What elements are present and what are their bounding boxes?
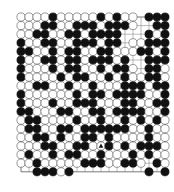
- white-stone: [65, 39, 73, 47]
- black-stone: [161, 47, 169, 55]
- white-stone: [145, 90, 153, 98]
- black-stone: [129, 108, 137, 116]
- black-stone: [113, 13, 121, 21]
- black-stone: [105, 125, 113, 133]
- black-stone: [49, 151, 57, 159]
- white-stone: [137, 73, 145, 81]
- black-stone: [97, 13, 105, 21]
- white-stone: [33, 90, 41, 98]
- black-stone: [17, 39, 25, 47]
- white-stone: [129, 116, 137, 124]
- black-stone: [25, 108, 33, 116]
- white-stone: [65, 22, 73, 30]
- white-stone: [105, 116, 113, 124]
- black-stone: [33, 116, 41, 124]
- black-stone: [41, 82, 49, 90]
- white-stone: [25, 142, 33, 150]
- black-stone: [17, 73, 25, 81]
- white-stone: [41, 99, 49, 107]
- black-stone: [161, 39, 169, 47]
- black-stone: [113, 108, 121, 116]
- go-board[interactable]: [0, 0, 174, 180]
- black-stone: [65, 108, 73, 116]
- white-stone: [137, 39, 145, 47]
- white-stone: [129, 142, 137, 150]
- white-stone: [65, 73, 73, 81]
- black-stone: [65, 82, 73, 90]
- white-stone: [161, 142, 169, 150]
- white-stone: [25, 99, 33, 107]
- white-stone: [89, 73, 97, 81]
- black-stone: [145, 39, 153, 47]
- white-stone: [97, 39, 105, 47]
- white-stone: [25, 159, 33, 167]
- white-stone: [137, 159, 145, 167]
- black-stone: [145, 168, 153, 176]
- white-stone: [161, 65, 169, 73]
- white-stone: [113, 56, 121, 64]
- white-stone: [17, 13, 25, 21]
- black-stone: [33, 133, 41, 141]
- white-stone: [89, 151, 97, 159]
- black-stone: [121, 90, 129, 98]
- black-stone: [153, 159, 161, 167]
- white-stone: [81, 108, 89, 116]
- black-stone: [25, 116, 33, 124]
- black-stone: [41, 142, 49, 150]
- black-stone: [137, 142, 145, 150]
- white-stone: [41, 65, 49, 73]
- black-stone: [57, 73, 65, 81]
- white-stone: [49, 116, 57, 124]
- black-stone: [161, 168, 169, 176]
- white-stone: [65, 159, 73, 167]
- black-stone: [49, 142, 57, 150]
- black-stone: [65, 151, 73, 159]
- white-stone: [145, 99, 153, 107]
- black-stone: [25, 151, 33, 159]
- black-stone: [17, 56, 25, 64]
- white-stone: [105, 108, 113, 116]
- white-stone: [113, 82, 121, 90]
- black-stone: [89, 159, 97, 167]
- white-stone: [57, 22, 65, 30]
- black-stone: [81, 125, 89, 133]
- white-stone: [81, 56, 89, 64]
- black-stone: [161, 30, 169, 38]
- white-stone: [153, 133, 161, 141]
- black-stone: [73, 99, 81, 107]
- white-stone: [113, 116, 121, 124]
- white-stone: [73, 125, 81, 133]
- white-stone: [33, 108, 41, 116]
- black-stone: [105, 56, 113, 64]
- black-stone: [73, 47, 81, 55]
- black-stone: [105, 133, 113, 141]
- white-stone: [65, 116, 73, 124]
- black-stone: [89, 56, 97, 64]
- white-stone: [17, 142, 25, 150]
- black-stone: [137, 116, 145, 124]
- black-stone: [25, 125, 33, 133]
- white-stone: [57, 65, 65, 73]
- white-stone: [137, 133, 145, 141]
- black-stone: [137, 47, 145, 55]
- white-stone: [113, 99, 121, 107]
- black-stone: [81, 99, 89, 107]
- black-stone: [145, 125, 153, 133]
- black-stone: [33, 82, 41, 90]
- black-stone: [17, 47, 25, 55]
- black-stone: [137, 90, 145, 98]
- white-stone: [153, 151, 161, 159]
- black-stone: [33, 125, 41, 133]
- black-stone: [41, 133, 49, 141]
- white-stone: [81, 82, 89, 90]
- white-stone: [129, 47, 137, 55]
- black-stone: [49, 47, 57, 55]
- white-stone: [73, 82, 81, 90]
- black-stone: [145, 56, 153, 64]
- white-stone: [97, 99, 105, 107]
- black-stone: [49, 39, 57, 47]
- black-stone: [113, 65, 121, 73]
- black-stone: [153, 13, 161, 21]
- white-stone: [65, 133, 73, 141]
- black-stone: [105, 22, 113, 30]
